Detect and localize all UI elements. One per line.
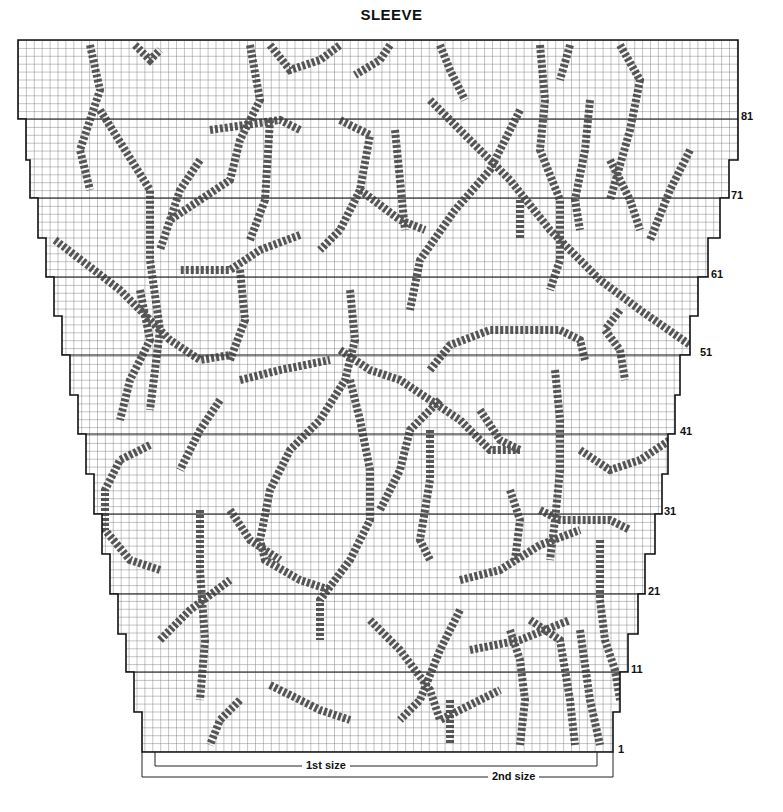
first-size-bracket — [155, 752, 597, 766]
first-size-label: 1st size — [302, 759, 350, 771]
row-label-61: 61 — [711, 268, 723, 280]
row-label-31: 31 — [664, 505, 676, 517]
grid-area — [0, 0, 783, 812]
row-label-41: 41 — [680, 425, 692, 437]
row-label-21: 21 — [648, 585, 660, 597]
second-size-label: 2nd size — [488, 770, 539, 782]
row-label-71: 71 — [731, 189, 743, 201]
row-label-51: 51 — [700, 346, 712, 358]
row-label-81: 81 — [741, 110, 753, 122]
second-size-bracket — [142, 752, 613, 777]
sleeve-chart — [0, 0, 783, 812]
row-label-1: 1 — [618, 743, 624, 755]
size-brackets — [142, 752, 613, 777]
row-label-11: 11 — [631, 663, 643, 675]
